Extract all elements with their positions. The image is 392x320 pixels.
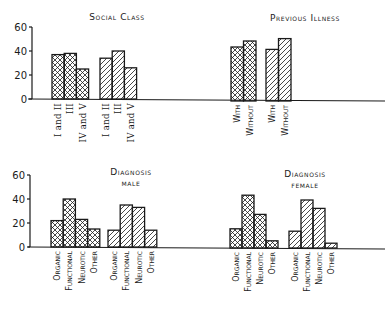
bar-other xyxy=(145,230,157,247)
y-tick-label: 60 xyxy=(14,22,27,33)
category-label: Other xyxy=(327,252,336,274)
bar-other xyxy=(266,241,278,248)
y-tick-label: 0 xyxy=(19,242,25,253)
category-label: Other xyxy=(147,251,156,273)
bar-neurotic xyxy=(313,208,325,248)
bar-i-and-ii xyxy=(100,58,112,99)
bar-organic xyxy=(51,221,63,247)
bar-functional xyxy=(242,195,254,248)
category-label: Functional xyxy=(244,251,253,291)
bar-iv-and-v xyxy=(76,69,88,99)
category-label: Neurotic xyxy=(135,251,144,284)
bar-iv-and-v xyxy=(124,68,136,99)
social-class-title: Social Class xyxy=(89,12,144,22)
category-label: Neurotic xyxy=(315,252,324,285)
category-label: Without xyxy=(246,105,255,136)
chart-figure: Social Class Previous Illness Diagnosis … xyxy=(0,0,392,320)
category-label: I and II xyxy=(101,103,111,137)
category-label: III xyxy=(65,103,75,114)
previous-illness-title: Previous Illness xyxy=(270,13,340,23)
category-label: Organic xyxy=(110,251,119,281)
bar-without xyxy=(244,41,257,101)
category-label: Organic xyxy=(232,252,241,282)
bar-organic xyxy=(289,231,301,248)
bar-i-and-ii xyxy=(52,55,64,99)
plot-area: 02040600204060I and IIIIIIV and VI and I… xyxy=(12,22,385,292)
y-tick-label: 40 xyxy=(14,46,27,57)
diagnosis-female-title: Diagnosis xyxy=(284,169,325,179)
category-label: Neurotic xyxy=(78,251,87,284)
bar-with xyxy=(266,49,279,101)
bar-neurotic xyxy=(254,214,266,248)
bar-other xyxy=(325,243,337,248)
bar-iii xyxy=(64,53,76,99)
bar-neurotic xyxy=(75,219,87,247)
y-tick-label: 20 xyxy=(12,218,25,229)
bar-neurotic xyxy=(132,207,144,247)
y-tick-label: 40 xyxy=(12,194,25,205)
bar-organic xyxy=(108,230,120,247)
bar-organic xyxy=(230,229,242,248)
category-label: IV and V xyxy=(126,102,136,142)
category-label: Organic xyxy=(291,252,300,282)
bar-with xyxy=(231,47,244,101)
category-label: I and II xyxy=(53,103,63,137)
category-label: Functional xyxy=(122,250,131,290)
bar-without xyxy=(279,39,292,101)
bar-functional xyxy=(63,199,75,247)
category-label: Other xyxy=(268,252,277,274)
y-tick-label: 20 xyxy=(14,70,27,81)
diagnosis-male-title: Diagnosis xyxy=(110,167,151,177)
bar-iii xyxy=(112,51,124,99)
category-label: Other xyxy=(90,251,99,273)
bar-functional xyxy=(301,200,313,248)
diagnosis-female-subtitle: female xyxy=(291,180,318,190)
y-tick-label: 0 xyxy=(21,94,27,105)
bar-other xyxy=(88,229,100,247)
y-tick-label: 60 xyxy=(12,170,25,181)
category-label: Organic xyxy=(53,251,62,281)
category-label: Functional xyxy=(65,250,74,290)
category-label: III xyxy=(113,103,123,114)
bar-functional xyxy=(120,205,132,247)
category-label: Neurotic xyxy=(256,252,265,285)
category-label: IV and V xyxy=(78,102,88,142)
category-label: With xyxy=(233,105,242,123)
diagnosis-male-subtitle: male xyxy=(122,178,141,188)
category-label: Without xyxy=(281,105,290,136)
category-label: Functional xyxy=(303,251,312,291)
category-label: With xyxy=(268,105,277,123)
